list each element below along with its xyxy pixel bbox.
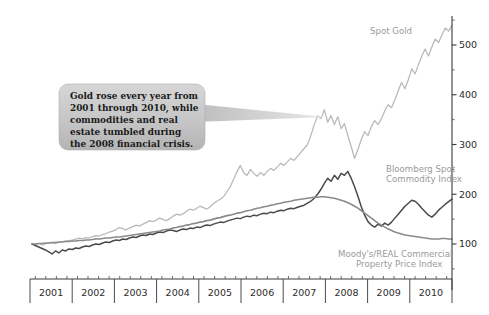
y-tick-label: 100 <box>459 238 477 249</box>
series-label-bloomberg-line1: Bloomberg Spot <box>386 164 456 174</box>
callout-line-4: estate tumbled during <box>70 127 181 137</box>
x-tick-label-2007: 2007 <box>292 287 316 298</box>
callout-line-1: Gold rose every year from <box>70 91 199 101</box>
series-label-spot-gold: Spot Gold <box>370 26 412 36</box>
x-tick-label-2010: 2010 <box>419 287 443 298</box>
y-tick-label: 400 <box>459 89 477 100</box>
index-comparison-line-chart: 100200300400500 200120022003200420052006… <box>0 0 489 315</box>
y-tick-label: 200 <box>459 189 477 200</box>
x-tick-label-2008: 2008 <box>334 287 358 298</box>
callout-line-5: the 2008 financial crisis. <box>70 139 193 149</box>
x-tick-label-2003: 2003 <box>123 287 147 298</box>
series-label-moodys-line2: Property Price Index <box>356 259 442 269</box>
callout-line-3: commodities and real <box>70 115 178 125</box>
x-tick-label-2001: 2001 <box>39 287 63 298</box>
y-tick-label: 500 <box>459 39 477 50</box>
x-tick-label-2009: 2009 <box>377 287 401 298</box>
x-tick-label-2006: 2006 <box>250 287 274 298</box>
callout-line-2: 2001 through 2010, while <box>70 103 199 113</box>
x-tick-label-2005: 2005 <box>208 287 232 298</box>
series-label-moodys-line1: Moody's/REAL Commercial <box>338 249 452 259</box>
chart-container: 100200300400500 200120022003200420052006… <box>0 0 489 315</box>
series-label-bloomberg-line2: Commodity Index <box>386 174 462 184</box>
x-tick-label-2002: 2002 <box>81 287 105 298</box>
x-tick-label-2004: 2004 <box>166 287 190 298</box>
y-tick-label: 300 <box>459 139 477 150</box>
